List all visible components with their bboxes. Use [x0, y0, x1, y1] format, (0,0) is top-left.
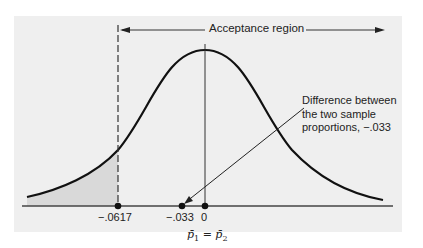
- p1-symbol: p̄: [187, 228, 194, 241]
- arrowhead-right-icon: [375, 27, 385, 33]
- acceptance-region-label: Acceptance region: [207, 22, 306, 34]
- p2-subscript: 2: [222, 234, 227, 243]
- rejection-region-shading: [27, 150, 118, 206]
- annotation-line-3: proportions, −.033: [302, 121, 402, 135]
- annotation-pointer: [186, 108, 304, 202]
- arrowhead-left-icon: [120, 27, 130, 33]
- sample-difference-annotation: Difference between the two sample propor…: [302, 94, 402, 135]
- null-hypothesis-label: p̄1 = p̄2: [187, 228, 228, 243]
- tick-label-zero: 0: [201, 211, 207, 223]
- point-critical-value: [115, 203, 122, 210]
- point-zero: [202, 203, 209, 210]
- annotation-line-2: the two sample: [302, 108, 402, 122]
- annotation-line-1: Difference between: [302, 94, 402, 108]
- point-sample-difference: [179, 203, 186, 210]
- tick-label-critical: −.0617: [98, 211, 132, 223]
- equals-sign: =: [199, 228, 215, 241]
- tick-label-sample: −.033: [166, 211, 194, 223]
